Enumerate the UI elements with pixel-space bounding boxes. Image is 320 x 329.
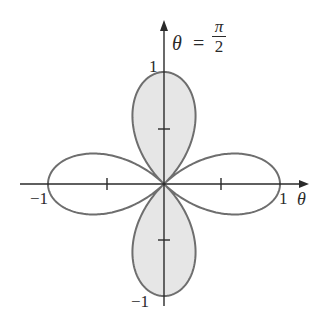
x-tick-label-one: 1 (279, 190, 288, 207)
y-axis-arrow-icon (160, 20, 168, 31)
y-tick-label-one: 1 (149, 58, 158, 75)
x-tick-label-neg-one: −1 (30, 190, 48, 207)
plot-canvas (0, 0, 320, 329)
fraction-denominator: 2 (215, 37, 224, 55)
annotation-equals: = (193, 33, 204, 53)
y-tick-label-neg-one: −1 (131, 293, 149, 310)
x-axis-arrow-icon (299, 180, 309, 188)
annotation-theta: θ (172, 33, 182, 53)
fraction-numerator: π (214, 18, 225, 36)
annotation-pi-over-two: π 2 (212, 18, 226, 55)
polar-rose-figure: θ = π 2 1 −1 −1 1 θ (0, 0, 320, 329)
x-axis-label-theta: θ (297, 190, 306, 208)
